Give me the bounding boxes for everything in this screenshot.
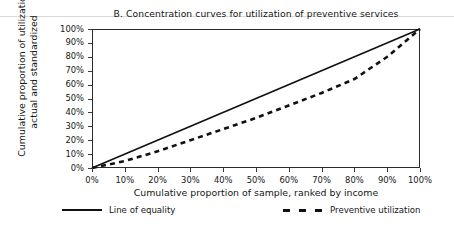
y-tick-label: 100% bbox=[40, 24, 84, 34]
y-tick-label: 50% bbox=[40, 93, 84, 103]
dashed-line-swatch-icon bbox=[283, 209, 323, 212]
chart-title: B. Concentration curves for utilization … bbox=[92, 8, 420, 19]
y-tick-label: 40% bbox=[40, 107, 84, 117]
y-axis-title: Cumulative proportion of utilization, ac… bbox=[16, 0, 40, 162]
legend-item-preventive-utilization: Preventive utilization bbox=[283, 205, 421, 215]
y-tick-mark bbox=[88, 43, 92, 44]
y-tick-label: 90% bbox=[40, 37, 84, 47]
y-tick-label: 70% bbox=[40, 65, 84, 75]
y-tick-mark bbox=[88, 154, 92, 155]
chart-plot bbox=[92, 29, 420, 168]
y-tick-label: 80% bbox=[40, 51, 84, 61]
chart-legend: Line of equality Preventive utilization bbox=[0, 205, 454, 223]
x-tick-mark bbox=[92, 168, 93, 172]
x-tick-mark bbox=[190, 168, 191, 172]
x-tick-mark bbox=[354, 168, 355, 172]
series-line-of-equality bbox=[92, 29, 420, 168]
y-axis-title-line1: Cumulative proportion of utilization, bbox=[16, 0, 28, 162]
y-tick-mark bbox=[88, 126, 92, 127]
x-tick-mark bbox=[125, 168, 126, 172]
x-axis-title: Cumulative proportion of sample, ranked … bbox=[92, 187, 420, 198]
y-tick-mark bbox=[88, 99, 92, 100]
y-axis-title-line2: actual and standardized bbox=[28, 0, 40, 162]
y-tick-mark bbox=[88, 29, 92, 30]
y-tick-label: 30% bbox=[40, 121, 84, 131]
y-tick-mark bbox=[88, 140, 92, 141]
y-tick-mark bbox=[88, 112, 92, 113]
solid-line-swatch-icon bbox=[62, 209, 102, 211]
y-tick-mark bbox=[88, 71, 92, 72]
x-tick-mark bbox=[223, 168, 224, 172]
x-tick-mark bbox=[387, 168, 388, 172]
x-tick-mark bbox=[158, 168, 159, 172]
y-tick-mark bbox=[88, 85, 92, 86]
x-tick-mark bbox=[322, 168, 323, 172]
legend-label-line-of-equality: Line of equality bbox=[109, 205, 175, 215]
legend-label-preventive-utilization: Preventive utilization bbox=[330, 205, 421, 215]
y-tick-label: 60% bbox=[40, 79, 84, 89]
legend-item-line-of-equality: Line of equality bbox=[62, 205, 175, 215]
x-tick-mark bbox=[256, 168, 257, 172]
y-tick-label: 0% bbox=[40, 163, 84, 173]
x-tick-label: 100% bbox=[400, 175, 440, 185]
x-tick-mark bbox=[420, 168, 421, 172]
y-tick-label: 10% bbox=[40, 149, 84, 159]
y-tick-label: 20% bbox=[40, 135, 84, 145]
x-tick-mark bbox=[289, 168, 290, 172]
figure-panel-b: B. Concentration curves for utilization … bbox=[0, 0, 454, 227]
y-tick-mark bbox=[88, 57, 92, 58]
